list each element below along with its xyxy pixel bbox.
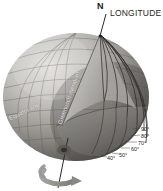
degree-label: 50° [119, 152, 127, 158]
pole-bearing-marker [57, 145, 71, 155]
degree-label: 70° [138, 140, 146, 146]
globe-illustration [0, 0, 163, 191]
rotation-direction-arrow [40, 166, 82, 186]
degree-label: 60° [131, 146, 139, 152]
degree-label: 90° [141, 126, 149, 132]
north-pole-label: N [97, 2, 104, 11]
page-title: LONGITUDE [110, 9, 161, 18]
longitude-diagram: N LONGITUDE Equator line Greenwich merid… [0, 0, 163, 191]
degree-label: 80° [141, 133, 149, 139]
degree-label: 40° [107, 155, 115, 161]
north-pole-marker [99, 35, 102, 38]
